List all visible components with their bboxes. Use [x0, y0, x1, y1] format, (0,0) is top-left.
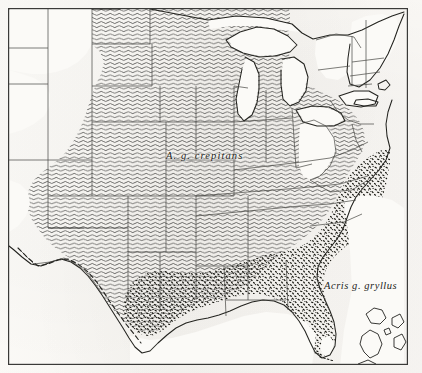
- range-label-crepitans: A. g. crepitans: [166, 150, 243, 161]
- range-map-figure: A. g. crepitans Acris g. gryllus: [0, 0, 422, 373]
- map-frame-border: [8, 8, 408, 365]
- range-label-gryllus: Acris g. gryllus: [324, 280, 397, 291]
